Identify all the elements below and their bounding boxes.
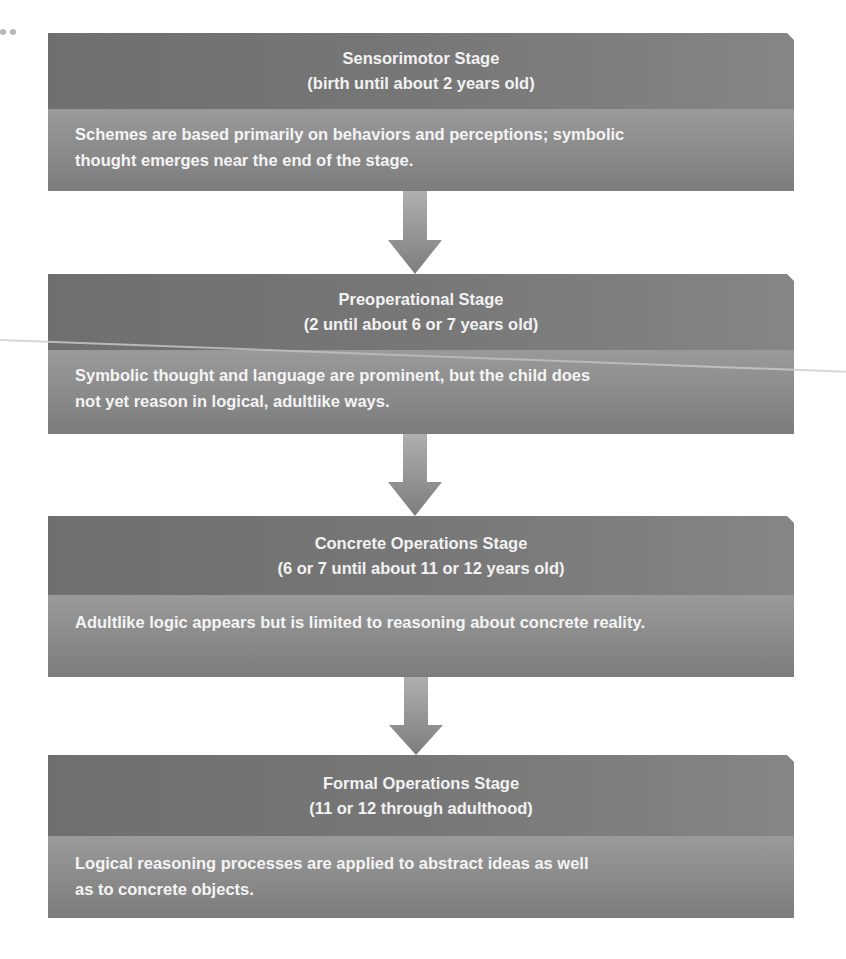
stage-title: Formal Operations Stage (48, 771, 794, 796)
stage-age-range: (11 or 12 through adulthood) (48, 796, 794, 821)
description-line: Logical reasoning processes are applied … (75, 850, 764, 876)
description-line: Adultlike logic appears but is limited t… (75, 609, 764, 635)
stage-box-concrete-operations: Concrete Operations Stage (6 or 7 until … (48, 516, 794, 677)
stage-box-formal-operations: Formal Operations Stage (11 or 12 throug… (48, 755, 794, 918)
stage-header: Formal Operations Stage (11 or 12 throug… (48, 755, 794, 836)
stage-title: Sensorimotor Stage (48, 46, 794, 71)
description-line: Schemes are based primarily on behaviors… (75, 121, 764, 147)
description-line: as to concrete objects. (75, 876, 764, 902)
description-line: not yet reason in logical, adultlike way… (75, 388, 764, 414)
stage-age-range: (2 until about 6 or 7 years old) (48, 312, 794, 337)
stage-description: Symbolic thought and language are promin… (48, 350, 794, 434)
stage-header: Preoperational Stage (2 until about 6 or… (48, 274, 794, 350)
down-arrow-icon (385, 432, 445, 518)
stage-box-sensorimotor: Sensorimotor Stage (birth until about 2 … (48, 33, 794, 191)
stage-header: Concrete Operations Stage (6 or 7 until … (48, 516, 794, 595)
stage-age-range: (birth until about 2 years old) (48, 71, 794, 96)
stage-description: Adultlike logic appears but is limited t… (48, 595, 794, 677)
description-line: thought emerges near the end of the stag… (75, 147, 764, 173)
stage-header: Sensorimotor Stage (birth until about 2 … (48, 33, 794, 109)
stage-age-range: (6 or 7 until about 11 or 12 years old) (48, 556, 794, 581)
down-arrow-icon (386, 675, 446, 757)
down-arrow-icon (385, 190, 445, 276)
stage-title: Concrete Operations Stage (48, 531, 794, 556)
description-line: Symbolic thought and language are promin… (75, 362, 764, 388)
dot-mark (0, 29, 6, 35)
dot-mark (10, 29, 16, 35)
stage-description: Logical reasoning processes are applied … (48, 836, 794, 918)
stage-description: Schemes are based primarily on behaviors… (48, 109, 794, 191)
corner-dots (0, 29, 16, 35)
stage-title: Preoperational Stage (48, 287, 794, 312)
